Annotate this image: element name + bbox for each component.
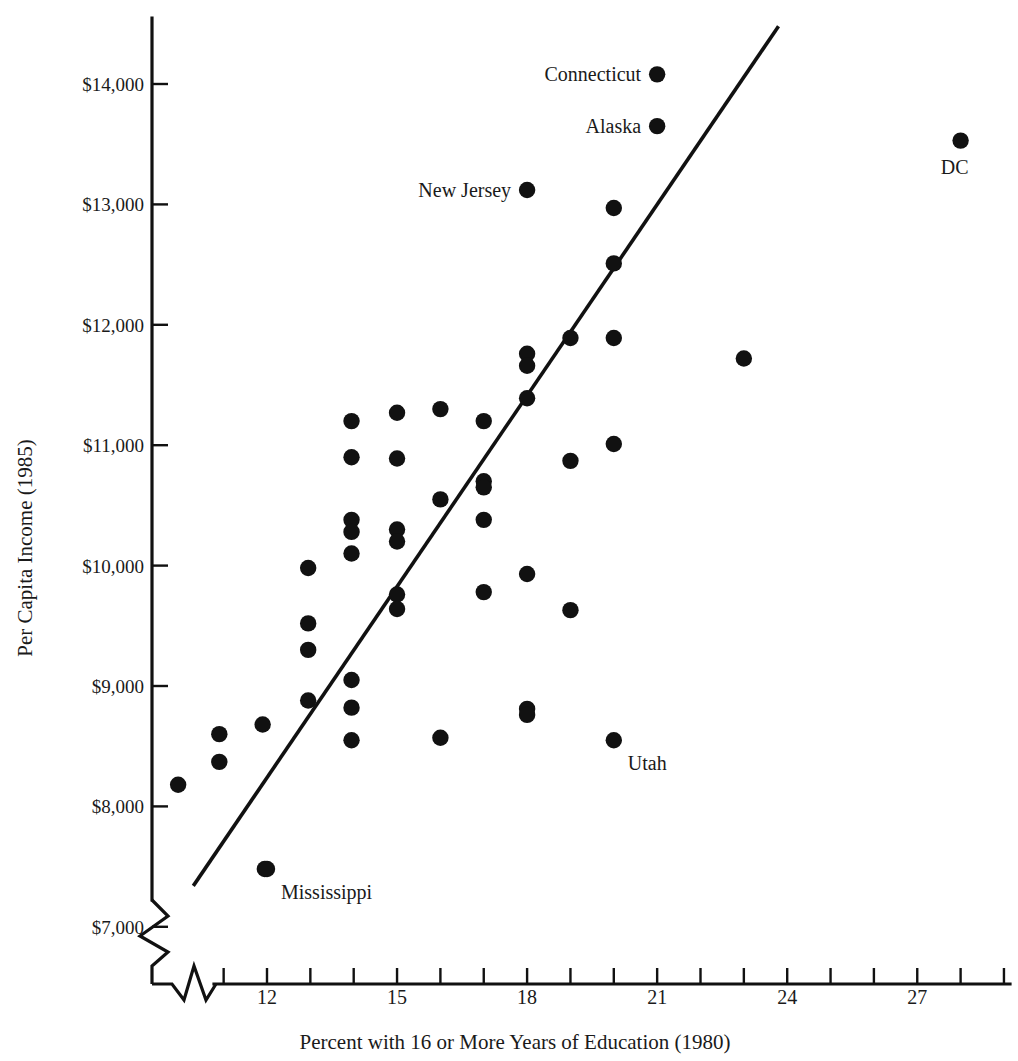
y-tick-label: $12,000: [82, 315, 144, 336]
data-point: [300, 560, 316, 576]
data-point-label: DC: [941, 156, 969, 178]
data-point: [300, 615, 316, 631]
data-point: [562, 330, 578, 346]
data-point: [389, 404, 405, 420]
data-point: [476, 584, 492, 600]
data-point: [562, 453, 578, 469]
data-point: [343, 449, 359, 465]
y-tick-label: $10,000: [82, 556, 144, 577]
data-point: [432, 491, 448, 507]
data-point: [519, 390, 535, 406]
data-point-label: Alaska: [586, 115, 642, 137]
data-point: [606, 255, 622, 271]
data-point: [606, 436, 622, 452]
data-point: [649, 118, 665, 134]
data-point: [254, 716, 270, 732]
data-point: [259, 861, 275, 877]
y-axis-ticks: [152, 84, 168, 927]
data-point: [343, 732, 359, 748]
data-point: [606, 330, 622, 346]
x-tick-label: 21: [647, 986, 667, 1008]
data-point: [476, 479, 492, 495]
data-point: [343, 699, 359, 715]
y-tick-label: $9,000: [92, 676, 144, 697]
regression-line: [193, 26, 778, 886]
data-point: [343, 672, 359, 688]
data-point: [736, 350, 752, 366]
y-tick-label: $11,000: [83, 435, 144, 456]
y-axis-title: Per Capita Income (1985): [13, 439, 37, 657]
scatter-plot-figure: $14,000$13,000$12,000$11,000$10,000$9,00…: [0, 0, 1018, 1061]
data-point: [519, 566, 535, 582]
chart-canvas: $14,000$13,000$12,000$11,000$10,000$9,00…: [0, 0, 1018, 1061]
x-tick-label: 27: [907, 986, 927, 1008]
data-point: [170, 777, 186, 793]
data-point: [649, 66, 665, 82]
data-point-label: Utah: [628, 752, 667, 774]
data-point: [343, 413, 359, 429]
data-point: [606, 200, 622, 216]
x-tick-label: 18: [517, 986, 537, 1008]
data-points-layer: [170, 66, 969, 877]
data-point-label: New Jersey: [418, 179, 511, 202]
data-point: [211, 754, 227, 770]
data-point: [432, 401, 448, 417]
data-point: [389, 601, 405, 617]
data-point: [476, 512, 492, 528]
data-point: [343, 545, 359, 561]
y-tick-label: $14,000: [82, 74, 144, 95]
data-point: [211, 726, 227, 742]
data-point-label: Connecticut: [545, 63, 642, 85]
data-point-label: Mississippi: [281, 881, 373, 904]
data-point: [519, 707, 535, 723]
data-point: [476, 413, 492, 429]
y-tick-label: $7,000: [92, 917, 144, 938]
data-point: [606, 732, 622, 748]
y-axis-tick-labels: $14,000$13,000$12,000$11,000$10,000$9,00…: [82, 74, 144, 938]
data-point: [432, 730, 448, 746]
data-point: [519, 358, 535, 374]
data-point: [389, 450, 405, 466]
data-point: [389, 586, 405, 602]
data-point: [300, 692, 316, 708]
y-axis-break-marker: [140, 900, 168, 984]
x-axis-break-marker: [152, 966, 216, 1000]
data-point: [952, 132, 968, 148]
x-axis-title: Percent with 16 or More Years of Educati…: [300, 1030, 731, 1054]
data-point: [519, 182, 535, 198]
y-tick-label: $8,000: [92, 796, 144, 817]
x-tick-label: 12: [257, 986, 277, 1008]
data-point-labels-layer: New JerseyUtahConnecticutAlaskaDCMississ…: [281, 63, 968, 904]
data-point: [343, 524, 359, 540]
data-point: [389, 533, 405, 549]
data-point: [562, 602, 578, 618]
data-point: [300, 642, 316, 658]
x-tick-label: 24: [777, 986, 797, 1008]
y-tick-label: $13,000: [82, 194, 144, 215]
x-axis-ticks: [224, 968, 1004, 984]
x-tick-label: 15: [387, 986, 407, 1008]
x-axis-tick-labels: 121518212427: [257, 986, 927, 1008]
